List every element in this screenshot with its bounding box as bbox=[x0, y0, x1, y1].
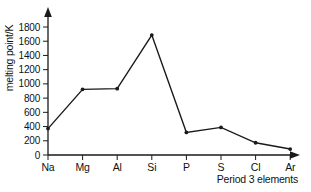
plot-area: 020040060080010001200140016001800NaMgAlS… bbox=[0, 0, 311, 192]
x-tick-label: Ar bbox=[285, 161, 296, 173]
melting-point-chart: 020040060080010001200140016001800NaMgAlS… bbox=[0, 0, 311, 192]
melting-point-line bbox=[48, 35, 290, 149]
y-tick-label: 400 bbox=[24, 121, 41, 132]
data-point-Na bbox=[46, 127, 50, 131]
y-tick-label: 600 bbox=[24, 107, 41, 118]
x-tick-label: Na bbox=[41, 161, 54, 173]
data-point-Mg bbox=[81, 87, 85, 91]
data-point-P bbox=[185, 131, 189, 135]
y-tick-label: 200 bbox=[24, 135, 41, 146]
x-axis-arrow bbox=[290, 151, 300, 159]
y-tick-label: 1600 bbox=[19, 36, 41, 47]
x-tick-label: Cl bbox=[251, 161, 261, 173]
x-tick-label: Al bbox=[113, 161, 122, 173]
y-tick-label: 1200 bbox=[19, 64, 41, 75]
x-tick-label: S bbox=[218, 161, 225, 173]
x-axis-title: Period 3 elements bbox=[217, 173, 298, 185]
y-axis-title: melting point/K bbox=[3, 25, 15, 91]
data-point-Al bbox=[115, 87, 119, 91]
y-axis-arrow bbox=[44, 7, 52, 17]
data-point-S bbox=[219, 126, 223, 130]
y-tick-label: 800 bbox=[24, 93, 41, 104]
y-tick-label: 1000 bbox=[19, 78, 41, 89]
x-tick-label: Mg bbox=[76, 161, 91, 173]
y-tick-label: 0 bbox=[35, 150, 41, 161]
y-tick-label: 1400 bbox=[19, 50, 41, 61]
data-point-Cl bbox=[254, 141, 258, 145]
x-tick-label: Si bbox=[147, 161, 156, 173]
y-tick-label: 1800 bbox=[19, 22, 41, 33]
data-point-Si bbox=[150, 33, 154, 37]
data-point-Ar bbox=[288, 147, 292, 151]
x-tick-label: P bbox=[183, 161, 190, 173]
